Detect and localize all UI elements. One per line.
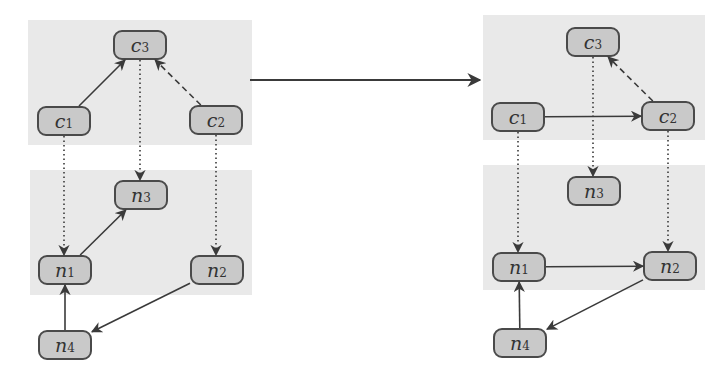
left-edge-n2-to-n4-solid — [92, 283, 190, 331]
left-edge-n1-to-n3-solid — [80, 210, 126, 255]
left-edge-c2-to-c3-dashed — [155, 60, 201, 105]
right-edge-n4-to-n1-solid — [519, 282, 520, 328]
left-edge-c1-to-c3-solid — [79, 60, 125, 106]
right-edge-n2-to-n4-solid — [547, 280, 643, 329]
diagram-canvas: c3c1c2n3n1n2n4 c3c1c2n3n1n2n4 — [0, 0, 728, 387]
right-edge-c2-to-c3-dashed — [608, 57, 653, 101]
right-edge-n1-to-n2-solid — [546, 266, 643, 267]
edges-layer — [0, 0, 728, 387]
